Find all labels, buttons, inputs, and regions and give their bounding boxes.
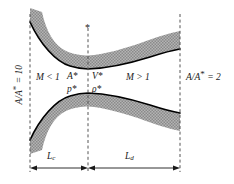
throat-velocity-label: V* [92, 72, 103, 82]
subsonic-region-label: M < 1 [36, 73, 60, 83]
converging-length-dimension [30, 165, 88, 170]
lower-wall-band [30, 93, 180, 154]
supersonic-region-label: M > 1 [126, 73, 150, 83]
nozzle-figure: * A/A* = 10 A/A* = 2 M < 1 M > 1 A* V* p… [0, 0, 234, 184]
inlet-area-ratio-label: A/A* = 10 [15, 50, 25, 120]
converging-length-subscript: c [52, 154, 55, 162]
nozzle-diagram-svg [0, 0, 234, 184]
diverging-length-subscript: d [130, 154, 134, 162]
throat-density-label: ρ* [92, 85, 101, 95]
diverging-length-dimension [88, 165, 180, 170]
throat-area-label: A* [67, 72, 78, 82]
converging-length-label: Lc [47, 152, 55, 162]
diverging-length-label: Ld [125, 152, 134, 162]
throat-pressure-label: p* [67, 85, 77, 95]
throat-marker-asterisk: * [85, 23, 90, 33]
upper-wall-band [30, 8, 180, 69]
exit-area-ratio-label: A/A* = 2 [186, 73, 221, 83]
